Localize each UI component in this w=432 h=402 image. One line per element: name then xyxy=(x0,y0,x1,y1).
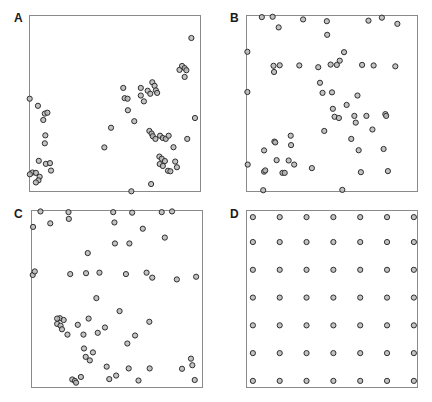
data-point xyxy=(148,91,153,96)
data-point xyxy=(189,35,194,40)
data-point xyxy=(140,226,145,231)
data-point xyxy=(393,64,398,69)
data-point xyxy=(385,169,390,174)
data-point xyxy=(245,49,250,54)
data-point xyxy=(245,162,250,167)
data-point xyxy=(271,69,276,74)
scatter-points-d xyxy=(246,210,418,388)
data-point xyxy=(271,63,276,68)
data-point xyxy=(95,330,100,335)
data-point xyxy=(349,136,354,141)
data-point xyxy=(47,161,52,166)
data-point xyxy=(261,188,266,193)
data-point xyxy=(364,113,369,118)
data-point xyxy=(65,332,70,337)
data-point xyxy=(277,295,282,300)
figure-panel-grid: ABCD xyxy=(0,0,432,402)
data-point xyxy=(250,378,255,383)
data-point xyxy=(166,133,171,138)
data-point xyxy=(358,267,363,272)
data-point xyxy=(328,62,333,67)
data-point xyxy=(304,351,309,356)
data-point xyxy=(61,317,66,322)
data-point xyxy=(59,327,64,332)
data-point xyxy=(366,18,371,23)
data-point xyxy=(30,224,35,229)
data-point xyxy=(132,333,137,338)
data-point xyxy=(331,378,336,383)
data-point xyxy=(277,215,282,220)
data-point xyxy=(370,127,375,132)
data-point xyxy=(162,158,167,163)
data-point xyxy=(33,180,38,185)
data-point xyxy=(192,377,197,382)
data-point xyxy=(304,323,309,328)
data-point xyxy=(111,210,116,215)
data-point xyxy=(117,309,122,314)
data-point xyxy=(38,209,43,214)
data-point xyxy=(169,209,174,214)
data-point xyxy=(147,319,152,324)
data-point xyxy=(68,271,73,276)
data-point xyxy=(194,274,199,279)
data-point xyxy=(358,239,363,244)
data-point xyxy=(337,58,342,63)
data-point xyxy=(301,17,306,22)
data-point xyxy=(336,115,341,120)
data-point xyxy=(341,50,346,55)
data-point xyxy=(325,32,330,37)
data-point xyxy=(356,148,361,153)
data-point xyxy=(81,332,86,337)
data-point xyxy=(41,117,46,122)
data-point xyxy=(317,80,322,85)
data-point xyxy=(45,110,50,115)
data-point xyxy=(104,364,109,369)
data-point xyxy=(185,136,190,141)
data-point xyxy=(132,119,137,124)
panel-label-c: C xyxy=(14,208,23,220)
data-point xyxy=(168,169,173,174)
data-point xyxy=(384,113,389,118)
data-point xyxy=(179,366,184,371)
data-point xyxy=(288,133,293,138)
data-point xyxy=(160,163,165,168)
data-point xyxy=(304,378,309,383)
data-point xyxy=(304,239,309,244)
data-point xyxy=(355,93,360,98)
data-point xyxy=(138,93,143,98)
data-point xyxy=(250,351,255,356)
data-point xyxy=(250,215,255,220)
data-point xyxy=(162,235,167,240)
data-point xyxy=(150,275,155,280)
data-point xyxy=(114,373,119,378)
scatter-points-b xyxy=(246,15,418,192)
data-point xyxy=(329,90,334,95)
data-point xyxy=(153,136,158,141)
data-point xyxy=(384,215,389,220)
data-point xyxy=(331,351,336,356)
data-point xyxy=(322,128,327,133)
data-point xyxy=(129,189,134,194)
data-point xyxy=(147,366,152,371)
data-point xyxy=(261,148,266,153)
data-point xyxy=(277,239,282,244)
data-point xyxy=(174,277,179,282)
data-point xyxy=(66,216,71,221)
data-point xyxy=(190,363,195,368)
data-point xyxy=(379,15,384,20)
data-point xyxy=(277,63,282,68)
data-point xyxy=(42,141,47,146)
data-point xyxy=(277,378,282,383)
data-point xyxy=(48,168,53,173)
data-point xyxy=(149,181,154,186)
data-point xyxy=(36,158,41,163)
data-point xyxy=(277,267,282,272)
data-point xyxy=(48,221,53,226)
data-point xyxy=(274,158,279,163)
data-point xyxy=(127,241,132,246)
data-point xyxy=(32,269,37,274)
data-point xyxy=(358,295,363,300)
data-point xyxy=(384,378,389,383)
data-point xyxy=(352,113,357,118)
data-point xyxy=(411,351,416,356)
